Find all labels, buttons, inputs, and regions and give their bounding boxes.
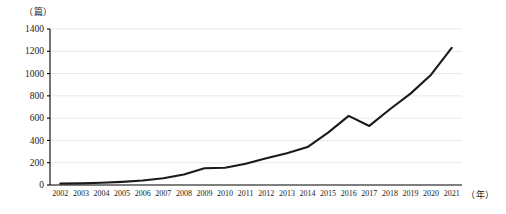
x-axis-tick-label: 2002 (52, 189, 68, 198)
x-axis-tick-label: 2008 (176, 189, 192, 198)
x-axis-tick-label: 2003 (73, 189, 89, 198)
x-axis-tick-labels: 2002200320042005200620072008200920102011… (52, 189, 459, 198)
chart-plot-area: 0200400600800100012001400 20022003200420… (0, 0, 506, 214)
x-axis-tick-label: 2014 (300, 189, 316, 198)
x-axis-tick-label: 2016 (341, 189, 357, 198)
y-axis-tick-label: 1400 (25, 24, 44, 34)
x-axis-tick-label: 2017 (361, 189, 377, 198)
y-axis-tick-label: 1200 (25, 46, 44, 56)
x-axis-tick-label: 2013 (279, 189, 295, 198)
x-axis-tick-label: 2015 (320, 189, 336, 198)
y-axis-tick-label: 1000 (25, 69, 44, 79)
y-axis-tick-labels: 0200400600800100012001400 (25, 24, 44, 190)
y-axis-tick-label: 600 (30, 113, 45, 123)
x-axis-tick-label: 2011 (238, 189, 254, 198)
x-axis-tick-label: 2007 (155, 189, 171, 198)
x-axis-tick-label: 2009 (197, 189, 213, 198)
y-axis-tick-label: 800 (30, 91, 45, 101)
data-series-line (60, 48, 451, 184)
x-axis-tick-label: 2019 (403, 189, 419, 198)
y-axis-tick-label: 200 (30, 158, 45, 168)
line-chart: （篇） （年） 0200400600800100012001400 200220… (0, 0, 506, 214)
x-axis-tick-label: 2006 (135, 189, 151, 198)
y-axis-tick-label: 400 (30, 136, 45, 146)
x-axis-tick-label: 2005 (114, 189, 130, 198)
y-axis-tick-label: 0 (39, 180, 44, 190)
x-axis-tick-label: 2021 (444, 189, 460, 198)
x-axis-tick-label: 2010 (217, 189, 233, 198)
x-axis-tick-label: 2018 (382, 189, 398, 198)
x-axis-tick-label: 2004 (94, 189, 110, 198)
x-axis-tick-label: 2020 (423, 189, 439, 198)
x-axis-tick-label: 2012 (258, 189, 274, 198)
